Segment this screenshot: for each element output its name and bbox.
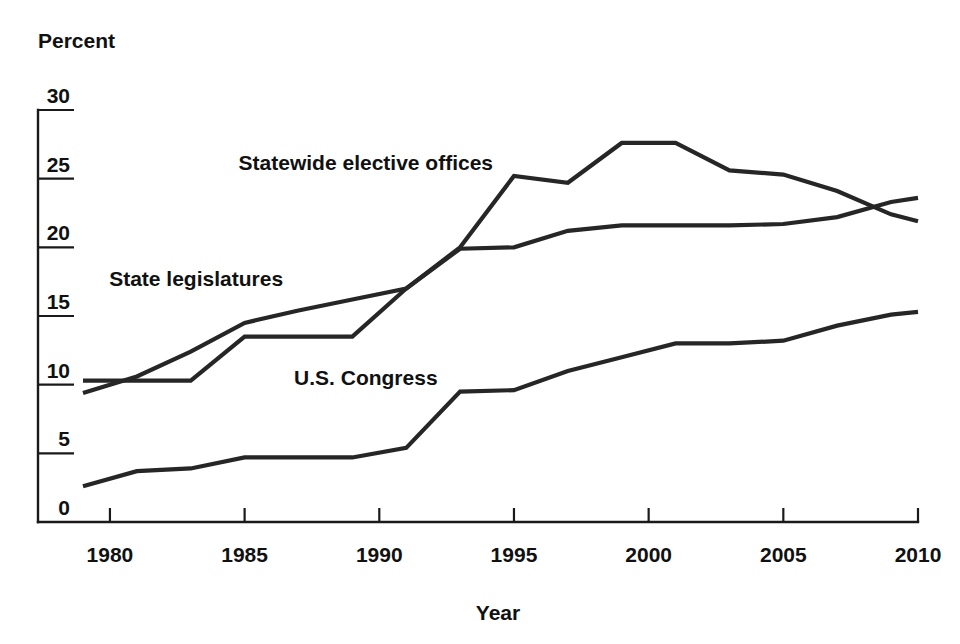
series-labels: Statewide elective officesState legislat… [109, 151, 493, 388]
x-axis-tick-label: 1990 [356, 543, 403, 566]
series-line-u-s-congress [83, 312, 918, 486]
series-label-state-legislatures: State legislatures [109, 267, 283, 290]
y-axis-tick-label: 20 [47, 221, 70, 244]
y-axis-title: Percent [38, 29, 115, 52]
x-axis-title: Year [476, 601, 520, 624]
series-label-u-s-congress: U.S. Congress [294, 366, 438, 389]
y-axis-tick-label: 10 [47, 359, 70, 382]
x-axis-tick-label: 2000 [625, 543, 672, 566]
y-axis-tick-label: 30 [47, 84, 70, 107]
x-axis-tick-label: 1995 [491, 543, 538, 566]
series-label-statewide-elective-offices: Statewide elective offices [239, 151, 493, 174]
x-axis-tick-label: 2010 [895, 543, 942, 566]
x-axis-tick-label: 2005 [760, 543, 807, 566]
y-axis-tick-label: 0 [58, 496, 70, 519]
data-series [83, 143, 918, 486]
x-axis-tick-label: 1980 [87, 543, 134, 566]
x-axis-tick-labels: 1980198519901995200020052010 [87, 543, 942, 566]
y-axis-tick-label: 25 [47, 153, 71, 176]
series-line-statewide-elective-offices [83, 143, 918, 381]
x-axis-tick-label: 1985 [221, 543, 268, 566]
line-chart: Percent 051015202530 1980198519901995200… [0, 0, 960, 644]
y-axis-tick-label: 5 [58, 427, 70, 450]
y-axis-tick-label: 15 [47, 290, 71, 313]
chart-container: Percent 051015202530 1980198519901995200… [0, 0, 960, 644]
